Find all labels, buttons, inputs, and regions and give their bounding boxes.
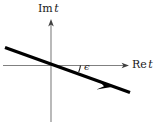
real-axis-label-variable: t (147, 58, 153, 71)
real-axis-label: Ret (132, 59, 153, 70)
imaginary-axis-label-variable: t (53, 2, 59, 15)
complex-plane-figure: Imt Ret ϵ (0, 0, 159, 140)
contour-line (5, 48, 130, 93)
angle-arc (79, 66, 81, 73)
real-axis (3, 63, 129, 69)
angle-epsilon-label: ϵ (84, 62, 90, 72)
imaginary-axis (48, 19, 54, 122)
imaginary-axis-label: Imt (38, 3, 59, 14)
real-axis-label-prefix: Re (132, 58, 147, 71)
imaginary-axis-label-prefix: Im (38, 2, 53, 15)
